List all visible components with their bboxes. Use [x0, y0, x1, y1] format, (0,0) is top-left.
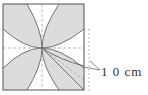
dimension-label: 1 0 cm [101, 64, 142, 80]
geometry-figure [0, 0, 148, 95]
leader-lines [84, 61, 100, 70]
